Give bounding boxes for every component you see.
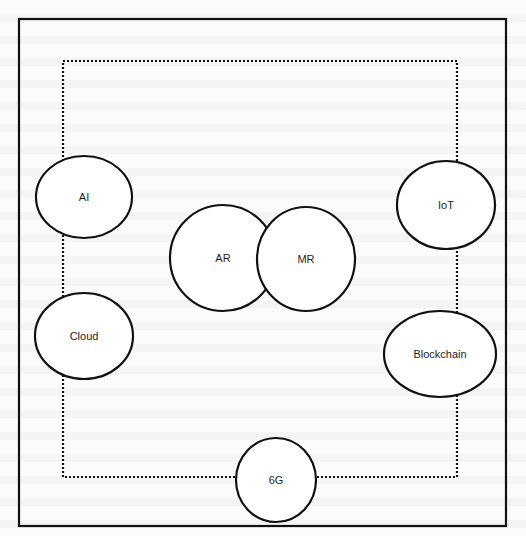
node-iot <box>397 161 495 249</box>
technology-diagram <box>0 0 526 536</box>
node-ai <box>36 156 132 238</box>
node-cloud <box>35 293 133 379</box>
node-mr <box>257 207 355 311</box>
nodes-layer <box>35 156 496 522</box>
node-6g <box>236 438 316 522</box>
node-blockchain <box>384 311 496 397</box>
